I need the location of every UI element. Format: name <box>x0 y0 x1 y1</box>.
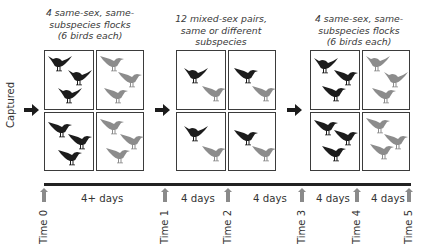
time-4-label: Time 4 <box>351 210 362 244</box>
flock-box-light-top <box>362 50 410 110</box>
bird-silhouette-icon <box>105 145 131 165</box>
caption-line: (6 birds each) <box>35 30 145 42</box>
caption-line: 12 mixed-sex pairs, <box>167 13 275 25</box>
bird-silhouette-icon <box>251 143 277 163</box>
flock-box-dark-bottom <box>44 112 94 171</box>
captured-label: Captured <box>5 82 16 128</box>
time-3-label: Time 3 <box>296 210 307 244</box>
right-arrow-icon <box>155 104 170 116</box>
up-arrow-icon <box>405 188 413 202</box>
caption-line: same or different <box>167 25 275 37</box>
caption-line: (6 birds each) <box>303 36 415 48</box>
interval-label: 4 days <box>181 193 215 204</box>
up-arrow-icon <box>298 188 306 202</box>
phase-2-caption: 12 mixed-sex pairs, same or different su… <box>167 13 275 48</box>
right-arrow-icon <box>24 104 39 116</box>
caption-line: subspecies <box>167 36 275 48</box>
bird-silhouette-icon <box>201 143 227 163</box>
flock-box-dark-top <box>310 50 360 110</box>
pair-box-top-left <box>176 50 226 110</box>
bird-silhouette-icon <box>371 85 397 105</box>
flock-box-light-top <box>96 50 144 110</box>
bird-silhouette-icon <box>183 65 209 85</box>
bird-silhouette-icon <box>369 141 395 161</box>
bird-silhouette-icon <box>321 143 347 163</box>
caption-line: subspecies flocks <box>303 25 415 37</box>
bird-silhouette-icon <box>57 147 83 167</box>
bird-silhouette-icon <box>103 85 129 105</box>
up-arrow-icon <box>224 188 232 202</box>
time-1-label: Time 1 <box>159 210 170 244</box>
caption-line: subspecies flocks <box>35 19 145 31</box>
pair-box-top-right <box>228 50 276 110</box>
interval-label: 4+ days <box>81 193 123 204</box>
flock-box-light-bottom <box>96 112 144 171</box>
caption-line: 4 same-sex, same- <box>35 7 145 19</box>
timeline-axis <box>44 183 411 186</box>
phase-1-caption: 4 same-sex, same- subspecies flocks (6 b… <box>35 7 145 42</box>
phase-3-caption: 4 same-sex, same- subspecies flocks (6 b… <box>303 13 415 48</box>
flock-box-light-bottom <box>362 112 410 171</box>
up-arrow-icon <box>161 188 169 202</box>
up-arrow-icon <box>353 188 361 202</box>
interval-label: 4 days <box>371 193 405 204</box>
flock-box-dark-bottom <box>310 112 360 171</box>
up-arrow-icon <box>40 188 48 202</box>
right-arrow-icon <box>287 104 302 116</box>
flock-box-dark-top <box>44 50 94 110</box>
bird-silhouette-icon <box>321 83 347 103</box>
bird-silhouette-icon <box>201 83 227 103</box>
pair-box-bottom-right <box>228 112 276 171</box>
time-2-label: Time 2 <box>222 210 233 244</box>
bird-silhouette-icon <box>233 65 259 85</box>
interval-label: 4 days <box>316 193 350 204</box>
bird-silhouette-icon <box>183 123 209 143</box>
bird-silhouette-icon <box>67 67 93 87</box>
caption-line: 4 same-sex, same- <box>303 13 415 25</box>
time-0-label: Time 0 <box>38 210 49 244</box>
bird-silhouette-icon <box>251 83 277 103</box>
interval-label: 4 days <box>253 193 287 204</box>
bird-silhouette-icon <box>57 85 83 105</box>
pair-box-bottom-left <box>176 112 226 171</box>
time-5-label: Time 5 <box>403 210 414 244</box>
